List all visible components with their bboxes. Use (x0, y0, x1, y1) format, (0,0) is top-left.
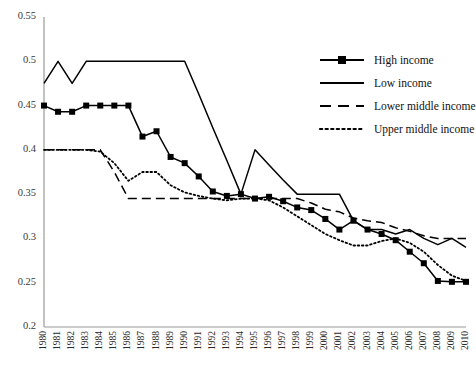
x-axis-tick-label: 2000 (320, 331, 329, 350)
x-axis-tick-label: 1986 (123, 331, 132, 350)
series-marker (97, 103, 103, 109)
series-marker (379, 231, 385, 237)
legend-swatch-icon (318, 52, 368, 68)
legend-item-label: Low income (374, 75, 432, 91)
y-axis-tick-label: 0.4 (0, 144, 36, 154)
x-axis-tick-label: 2008 (433, 331, 442, 350)
y-axis-tick-label: 0.25 (0, 277, 36, 287)
series-marker (125, 103, 131, 109)
series-marker (83, 103, 89, 109)
series-line-2 (44, 150, 466, 239)
x-axis-tick-label: 1997 (278, 331, 287, 350)
legend-item[interactable]: Low income (318, 75, 468, 91)
series-marker (308, 207, 314, 213)
x-axis-tick-label: 2005 (391, 331, 400, 350)
series-marker (449, 279, 455, 285)
x-axis-tick-label: 1989 (166, 331, 175, 350)
legend-swatch-icon (318, 98, 368, 114)
series-marker (154, 128, 160, 134)
x-axis-tick-label: 1984 (95, 331, 104, 350)
series-marker (168, 154, 174, 160)
x-axis-tick-label: 1988 (152, 331, 161, 350)
y-axis-tick-label: 0.2 (0, 321, 36, 331)
series-marker (196, 173, 202, 179)
x-axis-tick-label: 2006 (405, 331, 414, 350)
y-axis-tick-label: 0.35 (0, 188, 36, 198)
legend-item-label: High income (374, 52, 434, 68)
series-marker (111, 103, 117, 109)
series-line-3 (44, 150, 466, 281)
legend-item-label: Upper middle income (374, 121, 474, 137)
x-axis-tick-label: 1983 (81, 331, 90, 350)
x-axis-tick-label: 2009 (447, 331, 456, 350)
x-axis-tick-label: 1996 (264, 331, 273, 350)
legend-item[interactable]: High income (318, 52, 468, 68)
y-axis-tick-label: 0.3 (0, 232, 36, 242)
series-marker (69, 109, 75, 115)
x-axis-tick-label: 1993 (222, 331, 231, 350)
x-axis-tick-label: 2002 (348, 331, 357, 350)
series-marker (210, 188, 216, 194)
series-marker (41, 103, 47, 109)
series-marker (322, 216, 328, 222)
series-marker (294, 204, 300, 210)
x-axis-tick-label: 1980 (39, 331, 48, 350)
series-marker (435, 278, 441, 284)
x-axis-tick-label: 1985 (109, 331, 118, 350)
x-axis-tick-label: 2004 (377, 331, 386, 350)
x-axis-tick-label: 1998 (292, 331, 301, 350)
x-axis-tick-label: 1987 (137, 331, 146, 350)
x-axis-tick-label: 2007 (419, 331, 428, 350)
series-marker (336, 227, 342, 233)
y-axis-tick-label: 0.5 (0, 55, 36, 65)
x-axis-tick-label: 2001 (334, 331, 343, 350)
x-axis-tick-label: 1995 (250, 331, 259, 350)
series-marker (55, 109, 61, 115)
legend-swatch-icon (318, 121, 368, 137)
x-axis-tick-label: 2003 (363, 331, 372, 350)
series-marker (182, 160, 188, 166)
series-marker (421, 260, 427, 266)
legend-item[interactable]: Upper middle income (318, 121, 468, 137)
x-axis-tick-label: 1992 (208, 331, 217, 350)
x-axis-tick-label: 1994 (236, 331, 245, 350)
series-marker (407, 249, 413, 255)
x-axis-tick-label: 2010 (461, 331, 470, 350)
x-axis-tick-label: 1981 (53, 331, 62, 350)
legend-item-label: Lower middle income (374, 98, 476, 114)
y-axis-tick-label: 0.55 (0, 11, 36, 21)
x-axis-tick-label: 1982 (67, 331, 76, 350)
legend-swatch-icon (318, 75, 368, 91)
y-axis-tick-label: 0.45 (0, 100, 36, 110)
series-marker (139, 134, 145, 140)
x-axis-tick-label: 1991 (194, 331, 203, 350)
x-axis-tick-label: 1990 (180, 331, 189, 350)
legend-item[interactable]: Lower middle income (318, 98, 468, 114)
x-axis-tick-label: 1999 (306, 331, 315, 350)
